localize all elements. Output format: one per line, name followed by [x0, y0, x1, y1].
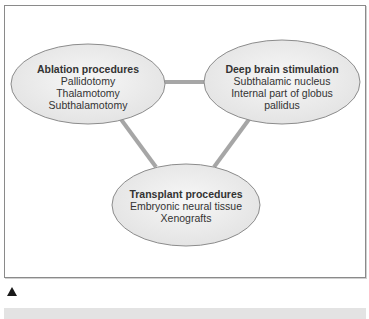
triangle-up-icon — [7, 287, 17, 296]
node-title: Transplant procedures — [111, 188, 261, 200]
node-item: Subthalamic nucleus — [207, 75, 357, 87]
node-item: pallidus — [207, 99, 357, 111]
node-transplant: Transplant procedures Embryonic neural t… — [111, 188, 261, 224]
node-item: Internal part of globus — [207, 87, 357, 99]
node-item: Subthalamotomy — [18, 99, 158, 111]
edge-ablation-transplant — [120, 118, 156, 167]
node-title: Ablation procedures — [18, 63, 158, 75]
node-dbs: Deep brain stimulation Subthalamic nucle… — [207, 63, 357, 111]
node-item: Xenografts — [111, 212, 261, 224]
caption-bar — [4, 308, 366, 319]
edge-dbs-transplant — [214, 118, 250, 167]
node-title: Deep brain stimulation — [207, 63, 357, 75]
node-item: Thalamotomy — [18, 87, 158, 99]
node-ablation: Ablation procedures Pallidotomy Thalamot… — [18, 63, 158, 111]
node-item: Embryonic neural tissue — [111, 200, 261, 212]
node-item: Pallidotomy — [18, 75, 158, 87]
diagram-canvas — [0, 0, 369, 319]
